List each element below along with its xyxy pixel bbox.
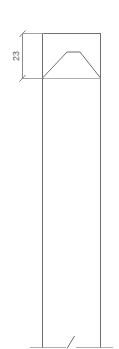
technical-drawing-canvas: 23	[0, 0, 119, 349]
chamfer-left-slope	[43, 52, 68, 78]
cad-drawing-svg: 23	[0, 0, 119, 349]
main-shaft-outline	[43, 34, 101, 348]
dimension-value-23: 23	[11, 51, 21, 61]
break-mark-diagonal-icon	[67, 336, 75, 349]
top-chamfer-feature	[43, 52, 101, 79]
chamfer-right-slope	[80, 52, 101, 78]
dimension-23-group: 23	[11, 31, 44, 82]
